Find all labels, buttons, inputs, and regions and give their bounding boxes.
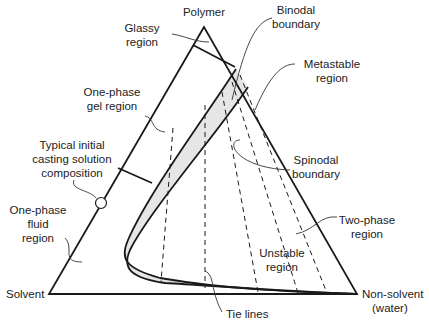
metastable-label-1: Metastable: [304, 58, 360, 70]
gel-label-1: One-phase: [84, 86, 141, 98]
casting-label-1: Typical initial: [39, 139, 104, 151]
binodal-label-2: boundary: [272, 18, 320, 30]
vertex-water-label: (water): [372, 302, 408, 314]
binodal-label-1: Binodal: [277, 4, 315, 16]
glassy-boundary: [193, 45, 235, 67]
gel-boundary: [118, 168, 152, 183]
vertex-solvent-label: Solvent: [6, 288, 45, 300]
glassy-label-1: Glassy: [124, 22, 159, 34]
glassy-label-2: region: [126, 36, 158, 48]
tie-lines: [161, 75, 327, 293]
casting-label-2: casting solution: [32, 153, 111, 165]
tie-lines-label: Tie lines: [226, 308, 269, 320]
two-phase-label-1: Two-phase: [339, 214, 395, 226]
ternary-phase-diagram: Polymer Solvent Non-solvent (water) Glas…: [0, 0, 429, 330]
two-phase-label-2: region: [351, 228, 383, 240]
gel-label-2: gel region: [87, 100, 138, 112]
unstable-label-2: region: [266, 261, 298, 273]
metastable-label-2: region: [316, 72, 348, 84]
fluid-label-3: region: [22, 232, 54, 244]
casting-composition-marker: [96, 198, 107, 209]
vertex-nonsolvent-label: Non-solvent: [362, 288, 424, 300]
fluid-label-2: fluid: [27, 218, 48, 230]
spinodal-label-1: Spinodal: [294, 154, 339, 166]
vertex-polymer-label: Polymer: [183, 6, 225, 18]
unstable-label-1: Unstable: [259, 247, 304, 259]
casting-label-3: composition: [41, 167, 102, 179]
fluid-label-1: One-phase: [10, 204, 67, 216]
spinodal-label-2: boundary: [292, 168, 340, 180]
